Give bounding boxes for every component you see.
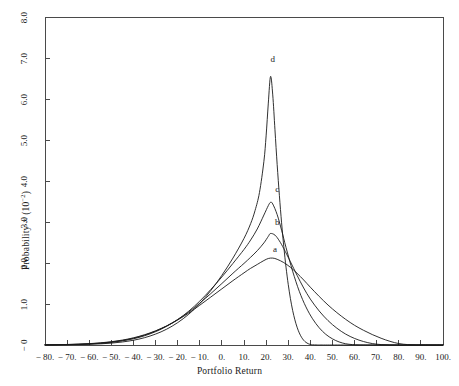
curve-layer bbox=[45, 76, 443, 345]
y-tick-label: 5.0 bbox=[19, 127, 30, 153]
curve-label-b: b bbox=[271, 217, 283, 227]
density-curve-c bbox=[45, 202, 443, 345]
y-tick-label: 4.0 bbox=[19, 168, 30, 194]
y-axis-title-exponent: −2 bbox=[19, 194, 26, 201]
y-tick-label: 2.0 bbox=[19, 250, 30, 276]
y-tick-label: 7.0 bbox=[19, 45, 30, 71]
y-tick-label: 6.0 bbox=[19, 86, 30, 112]
plot-canvas bbox=[0, 0, 459, 386]
y-tick-label: 3.0 bbox=[19, 209, 30, 235]
axis-layer bbox=[45, 17, 443, 345]
y-tick-label: 1.0 bbox=[19, 291, 30, 317]
tick-layer bbox=[45, 17, 443, 345]
chart-figure: Probability × (10−2) Portfolio Return − … bbox=[0, 0, 459, 386]
x-tick-label: 100. bbox=[426, 351, 459, 363]
curve-label-c: c bbox=[271, 184, 283, 194]
curve-label-d: d bbox=[267, 54, 279, 64]
density-curve-d bbox=[45, 76, 443, 345]
density-curve-a bbox=[45, 258, 443, 345]
y-tick-label: 8.0 bbox=[19, 4, 30, 30]
x-axis-title: Portfolio Return bbox=[0, 366, 459, 376]
curve-label-a: a bbox=[269, 244, 281, 254]
